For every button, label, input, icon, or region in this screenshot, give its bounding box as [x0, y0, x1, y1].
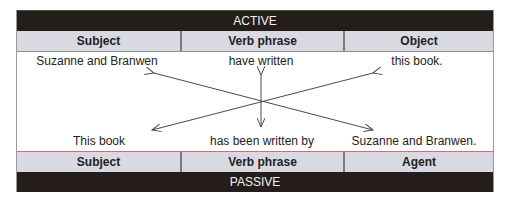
transformation-arrows	[17, 52, 493, 151]
active-title-bar: ACTIVE	[17, 10, 493, 32]
active-header-verb-phrase: Verb phrase	[182, 31, 345, 51]
active-passive-diagram: ACTIVE Subject Verb phrase Object Suzann…	[16, 10, 494, 192]
active-header-object: Object	[345, 31, 493, 51]
passive-header-agent: Agent	[345, 152, 493, 172]
passive-title-bar: PASSIVE	[17, 172, 493, 192]
passive-header-row: Subject Verb phrase Agent	[17, 151, 493, 172]
sentence-body: Suzanne and Branwen have written this bo…	[17, 52, 493, 151]
passive-header-subject: Subject	[17, 152, 182, 172]
passive-header-verb-phrase: Verb phrase	[182, 152, 345, 172]
active-header-subject: Subject	[17, 31, 182, 51]
active-header-row: Subject Verb phrase Object	[17, 31, 493, 52]
